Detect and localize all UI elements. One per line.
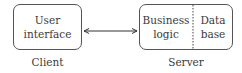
- database-line1: Data: [193, 14, 233, 27]
- business-logic-line2: logic: [139, 28, 193, 41]
- server-caption: Server: [139, 56, 233, 69]
- business-logic-line1: Business: [139, 14, 193, 27]
- database-line2: base: [193, 28, 233, 41]
- server-box: [139, 4, 233, 50]
